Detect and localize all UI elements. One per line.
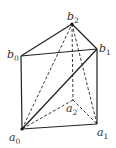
dashed-edge-b2-a2 [72,24,73,100]
solid-edge-a0-a1 [22,124,97,129]
solid-edge-a0-b1 [22,49,97,129]
edges-group [21,24,97,129]
vertex-label-a2: a2 [66,102,78,117]
solid-edge-b2-b0 [21,24,72,56]
solid-edge-b0-a0 [21,56,22,129]
vertex-label-a1: a1 [97,126,108,141]
solid-edge-b1-b2 [72,24,97,49]
vertex-label-b1: b1 [99,42,111,57]
vertex-label-b0: b0 [7,48,19,63]
vertex-dot-a0 [20,127,23,130]
prism-diagram: b0b1b2a0a1a2 [0,0,116,148]
vertex-label-a0: a0 [9,131,21,146]
solid-edge-b0-b1 [21,49,97,56]
vertex-label-b2: b2 [67,10,79,25]
vertex-labels: b0b1b2a0a1a2 [7,10,111,146]
